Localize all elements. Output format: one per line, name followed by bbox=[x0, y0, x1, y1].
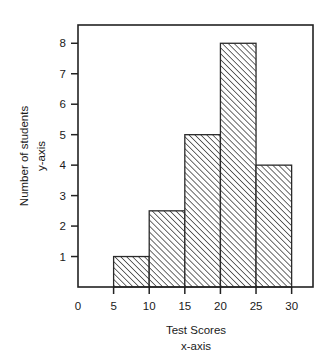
x-tick-label: 0 bbox=[75, 300, 81, 312]
x-tick-label: 30 bbox=[285, 300, 298, 312]
y-axis-title: Number of students bbox=[18, 106, 30, 207]
y-tick-label: 6 bbox=[60, 98, 66, 110]
x-tick-label: 15 bbox=[178, 300, 191, 312]
histogram-bar bbox=[256, 165, 292, 287]
y-tick-label: 3 bbox=[60, 190, 66, 202]
histogram-bar bbox=[185, 135, 221, 287]
histogram-bar bbox=[149, 211, 185, 287]
histogram-bar bbox=[220, 43, 256, 287]
x-tick-label: 20 bbox=[214, 300, 227, 312]
chart-svg: 12345678 051015202530 Test Scores x-axis… bbox=[0, 0, 324, 357]
x-tick-label: 5 bbox=[110, 300, 116, 312]
y-tick-label: 5 bbox=[60, 129, 66, 141]
y-tick-label: 4 bbox=[60, 159, 67, 171]
y-tick-label: 1 bbox=[60, 251, 66, 263]
x-axis-title: Test Scores bbox=[166, 324, 226, 336]
histogram-chart: 12345678 051015202530 Test Scores x-axis… bbox=[0, 0, 324, 357]
histogram-bar bbox=[114, 257, 150, 287]
x-tick-label: 25 bbox=[250, 300, 263, 312]
x-axis-title-secondary: x-axis bbox=[181, 340, 211, 352]
y-tick-label: 7 bbox=[60, 68, 66, 80]
y-tick-label: 8 bbox=[60, 37, 66, 49]
x-tick-label: 10 bbox=[143, 300, 156, 312]
y-axis-title-secondary: y-axis bbox=[35, 141, 47, 171]
y-tick-label: 2 bbox=[60, 220, 66, 232]
